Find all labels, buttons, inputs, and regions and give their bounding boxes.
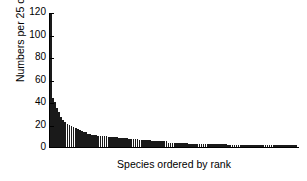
y-axis-tick-mark (50, 81, 54, 82)
y-axis-tick-label: 0 (22, 142, 46, 152)
x-axis-title: Species ordered by rank (49, 158, 299, 170)
y-axis-tick-mark (50, 13, 54, 14)
y-axis-tick-label: 100 (22, 30, 46, 40)
y-axis-tick-label: 80 (22, 52, 46, 62)
y-axis-tick-label: 20 (22, 120, 46, 130)
rank-abundance-chart: Numbers per 25 cm2 020406080100120 Speci… (0, 0, 307, 181)
y-axis-tick-mark (50, 103, 54, 104)
plot-area (49, 13, 299, 148)
y-axis-tick-mark (50, 36, 54, 37)
bar-series (50, 13, 299, 147)
y-axis-tick-mark (50, 126, 54, 127)
y-axis-tick-label: 120 (22, 7, 46, 17)
y-axis-tick-label: 40 (22, 97, 46, 107)
x-axis-line (49, 147, 299, 148)
y-axis-tick-mark (50, 147, 54, 148)
bar (295, 145, 297, 147)
y-axis-tick-label: 60 (22, 75, 46, 85)
y-axis-tick-mark (50, 58, 54, 59)
y-axis-tick-labels: 020406080100120 (22, 12, 46, 148)
